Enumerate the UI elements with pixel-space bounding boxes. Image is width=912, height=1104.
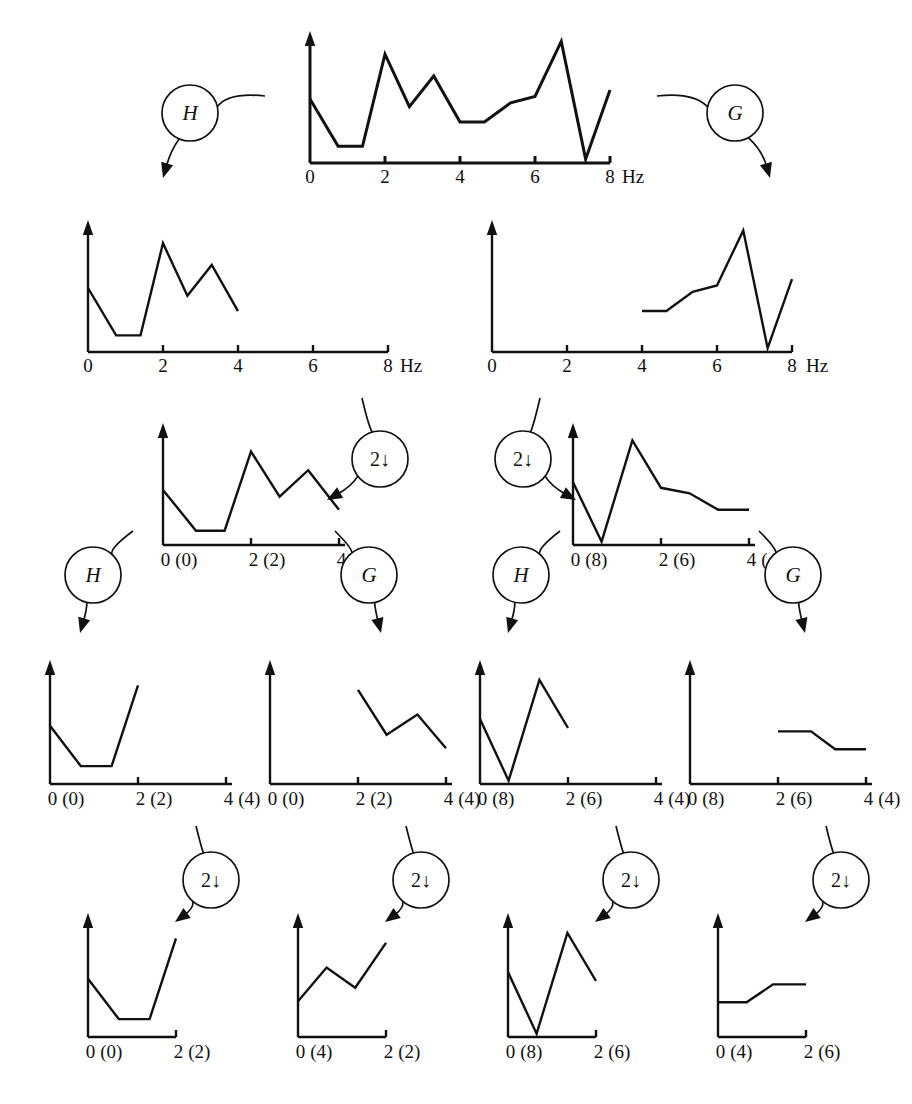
- node-output-arrowhead: [385, 908, 401, 922]
- chart-row4-c4: 0(8)2(6)4(4): [685, 660, 901, 810]
- y-axis-arrowhead: [568, 423, 578, 438]
- operator-node-node-down-3[interactable]: 2↓: [175, 826, 239, 922]
- node-label: 2↓: [831, 869, 851, 891]
- x-tick-label: 0: [83, 355, 93, 376]
- y-axis-arrowhead: [305, 31, 315, 46]
- y-axis-arrowhead: [45, 660, 55, 675]
- node-output-arrowhead: [161, 162, 173, 178]
- node-input-connector: [826, 826, 834, 853]
- node-label: 2↓: [370, 448, 390, 470]
- node-output-arrowhead: [175, 908, 191, 922]
- operator-node-node-h-3[interactable]: H: [493, 531, 560, 633]
- node-output-arrowhead: [327, 487, 343, 500]
- x-tick-label: 8: [605, 166, 615, 187]
- chart-axes: [293, 913, 386, 1037]
- node-label: H: [84, 563, 102, 587]
- operator-node-node-down-1[interactable]: 2↓: [327, 398, 408, 500]
- node-label: 2↓: [621, 869, 641, 891]
- x-tick-label: 0(0): [86, 1041, 123, 1063]
- axis-unit-label: Hz: [622, 166, 644, 187]
- operator-node-node-down-5[interactable]: 2↓: [595, 826, 659, 922]
- operator-node-node-h-2[interactable]: H: [65, 531, 133, 633]
- chart-row1-input: 02468: [305, 31, 615, 187]
- axis-unit-label: Hz: [806, 355, 828, 376]
- node-output-arrowhead: [805, 908, 821, 922]
- x-tick-label: 0(8): [571, 549, 608, 571]
- node-label: 2↓: [513, 448, 533, 470]
- node-output-arrowhead: [78, 617, 90, 633]
- x-tick-label: 6: [308, 355, 318, 376]
- x-tick-label: 4(4): [444, 788, 481, 810]
- node-input-connector: [657, 95, 708, 107]
- chart-axes: [713, 913, 806, 1037]
- chart-row2-left-H: 02468: [83, 220, 393, 376]
- x-tick-label: 2(2): [384, 1041, 421, 1063]
- operator-node-node-down-2[interactable]: 2↓: [495, 398, 576, 500]
- node-input-connector: [112, 531, 133, 554]
- chart-row5-c1: 0(0)2(2): [83, 913, 211, 1063]
- node-input-connector: [217, 95, 265, 107]
- x-tick-label: 2(2): [174, 1041, 211, 1063]
- x-tick-label: 0(8): [478, 788, 515, 810]
- operator-node-node-down-6[interactable]: 2↓: [805, 826, 869, 922]
- y-axis-arrowhead: [83, 913, 93, 928]
- signal-polyline: [718, 984, 806, 1002]
- y-axis-arrowhead: [475, 660, 485, 675]
- node-output-connector: [748, 138, 766, 167]
- x-tick-label: 2: [562, 355, 572, 376]
- x-tick-label: 0(0): [268, 788, 305, 810]
- y-axis-arrowhead: [487, 220, 497, 235]
- x-tick-label: 4(4): [654, 788, 691, 810]
- x-tick-label: 2(6): [594, 1041, 631, 1063]
- y-axis-arrowhead: [158, 423, 168, 438]
- y-axis-arrowhead: [265, 660, 275, 675]
- x-tick-label: 2: [380, 166, 390, 187]
- chart-row3-right: 0(8)2(6)4(4): [568, 423, 784, 571]
- node-label: H: [512, 563, 530, 587]
- chart-row5-c3: 0(8)2(6): [503, 913, 631, 1063]
- node-input-connector: [362, 398, 372, 432]
- y-axis-arrowhead: [293, 913, 303, 928]
- x-tick-label: 4: [233, 355, 243, 376]
- operator-node-node-h-1[interactable]: H: [161, 85, 265, 178]
- chart-row4-c1: 0(0)2(2)4(4): [45, 660, 261, 810]
- x-tick-label: 2: [158, 355, 168, 376]
- node-input-connector: [616, 826, 624, 853]
- signal-polyline: [310, 41, 610, 159]
- chart-row4-c3: 0(8)2(6)4(4): [475, 660, 691, 810]
- chart-axes: [83, 220, 388, 352]
- chart-axes: [568, 423, 755, 545]
- node-label: G: [727, 101, 742, 125]
- x-tick-label: 0(4): [716, 1041, 753, 1063]
- x-tick-label: 2(6): [566, 788, 603, 810]
- x-tick-label: 4: [455, 166, 465, 187]
- operator-node-node-g-2[interactable]: G: [335, 531, 397, 633]
- x-tick-label: 2(6): [776, 788, 813, 810]
- units-layer: HzHzHz: [400, 166, 828, 376]
- operator-node-node-g-1[interactable]: G: [657, 85, 772, 178]
- signal-polyline: [642, 230, 792, 348]
- signal-polyline: [778, 731, 866, 749]
- x-tick-label: 2(6): [804, 1041, 841, 1063]
- x-tick-label: 0: [305, 166, 315, 187]
- signal-polyline: [88, 938, 176, 1019]
- node-label: G: [785, 563, 800, 587]
- operator-node-node-down-4[interactable]: 2↓: [385, 826, 449, 922]
- x-tick-label: 2(6): [659, 549, 696, 571]
- node-label: 2↓: [201, 869, 221, 891]
- chart-axes: [475, 660, 662, 784]
- operator-node-node-g-3[interactable]: G: [759, 531, 821, 633]
- node-input-connector: [406, 826, 414, 853]
- x-tick-label: 4(4): [864, 788, 901, 810]
- node-output-connector: [166, 139, 179, 167]
- y-axis-arrowhead: [83, 220, 93, 235]
- node-output-arrowhead: [795, 617, 807, 633]
- node-label: H: [181, 101, 199, 125]
- x-tick-label: 0: [487, 355, 497, 376]
- x-tick-label: 0(0): [48, 788, 85, 810]
- x-tick-label: 2(2): [249, 549, 286, 571]
- chart-row5-c2: 0(4)2(2): [293, 913, 421, 1063]
- signal-polyline: [88, 243, 238, 335]
- signal-polyline: [508, 933, 596, 1034]
- signal-polyline: [480, 680, 568, 781]
